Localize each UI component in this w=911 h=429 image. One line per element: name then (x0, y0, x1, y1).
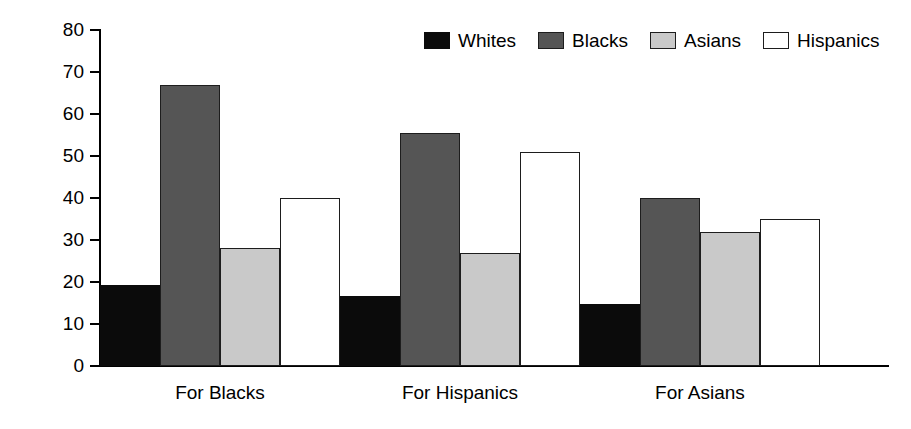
bar-whites-for-hispanics (340, 296, 400, 366)
plot-area (100, 30, 880, 366)
legend-swatch-icon-asians (650, 32, 676, 49)
y-axis-tick-label-wrap: 50 (0, 146, 84, 165)
y-axis-tick-label-wrap: 20 (0, 272, 84, 291)
y-axis-tick-label: 70 (36, 62, 84, 81)
legend-item-hispanics: Hispanics (763, 31, 879, 50)
y-axis-tick (90, 239, 100, 241)
x-axis-label-for-asians: For Asians (580, 382, 820, 404)
y-axis-tick-label: 30 (36, 230, 84, 249)
y-axis-tick-label-wrap: 70 (0, 62, 84, 81)
legend-swatch-icon-blacks (538, 32, 564, 49)
y-axis-tick-label-wrap: 10 (0, 314, 84, 333)
legend-label: Asians (684, 31, 741, 50)
y-axis-tick-label: 40 (36, 188, 84, 207)
bar-blacks-for-blacks (160, 85, 220, 366)
chart-legend: WhitesBlacksAsiansHispanics (424, 31, 879, 50)
y-axis-tick-label-wrap: 40 (0, 188, 84, 207)
bar-asians-for-hispanics (460, 253, 520, 366)
legend-item-blacks: Blacks (538, 31, 628, 50)
y-axis-tick-label: 0 (36, 356, 84, 375)
y-axis-tick-label: 80 (36, 20, 84, 39)
bar-hispanics-for-hispanics (520, 152, 580, 366)
bar-whites-for-asians (580, 304, 640, 366)
y-axis-tick-label: 50 (36, 146, 84, 165)
y-axis-tick-label: 60 (36, 104, 84, 123)
y-axis-tick (90, 113, 100, 115)
y-axis-tick-label-wrap: 30 (0, 230, 84, 249)
y-axis-tick (90, 71, 100, 73)
bar-hispanics-for-asians (760, 219, 820, 366)
x-axis-label-for-hispanics: For Hispanics (340, 382, 580, 404)
y-axis-tick-label-wrap: 60 (0, 104, 84, 123)
bar-whites-for-blacks (100, 285, 160, 366)
legend-swatch-icon-whites (424, 32, 450, 49)
legend-label: Blacks (572, 31, 628, 50)
y-axis-tick (90, 323, 100, 325)
y-axis-tick-label: 10 (36, 314, 84, 333)
y-axis-tick-label-wrap: 0 (0, 356, 84, 375)
bar-blacks-for-asians (640, 198, 700, 366)
legend-item-asians: Asians (650, 31, 741, 50)
y-axis-tick-label: 20 (36, 272, 84, 291)
y-axis-tick (90, 197, 100, 199)
bar-chart: 80706050403020100 For BlacksFor Hispanic… (0, 0, 911, 429)
legend-label: Whites (458, 31, 516, 50)
legend-item-whites: Whites (424, 31, 516, 50)
y-axis-tick (90, 29, 100, 31)
legend-label: Hispanics (797, 31, 879, 50)
bar-asians-for-blacks (220, 248, 280, 366)
bar-blacks-for-hispanics (400, 133, 460, 366)
y-axis-tick (90, 365, 100, 367)
legend-swatch-icon-hispanics (763, 32, 789, 49)
bar-hispanics-for-blacks (280, 198, 340, 366)
y-axis-tick (90, 281, 100, 283)
bar-asians-for-asians (700, 232, 760, 366)
y-axis-tick-label-wrap: 80 (0, 20, 84, 39)
y-axis-tick (90, 155, 100, 157)
x-axis-label-for-blacks: For Blacks (100, 382, 340, 404)
